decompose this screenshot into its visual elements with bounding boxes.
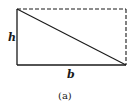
height-label: h [8, 31, 16, 44]
figure-caption: (a) [58, 90, 72, 101]
base-label: b [67, 68, 75, 81]
diagonal-edge [17, 9, 126, 65]
